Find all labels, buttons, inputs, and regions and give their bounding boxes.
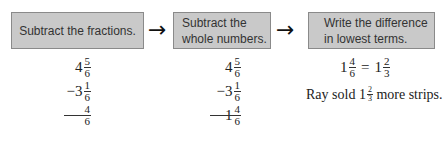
denominator: 6 (235, 68, 241, 79)
step-box-subtract-fractions: Subtract the fractions. (11, 12, 144, 49)
numerator: 1 (234, 80, 242, 92)
equals-sign: = (361, 59, 369, 76)
whole-part: 3 (75, 83, 83, 100)
fraction: 16 (84, 80, 92, 103)
numerator: 4 (84, 104, 92, 116)
whole-part: 1 (374, 59, 382, 76)
numerator: 5 (234, 56, 242, 68)
denominator: 6 (85, 116, 91, 127)
denominator: 6 (350, 68, 356, 79)
denominator: 3 (384, 68, 390, 79)
equation-lowest-terms: 1 46 = 1 23 (340, 55, 390, 79)
subtraction-rule (210, 115, 241, 116)
step-label-line1: Subtract the (182, 15, 270, 31)
denominator: 6 (85, 68, 91, 79)
fraction: 46 (349, 56, 357, 79)
step-label-line1: Write the difference (324, 15, 434, 31)
denominator: 3 (368, 95, 372, 103)
step-label-line2: whole numbers. (182, 31, 270, 47)
fraction: 23 (383, 56, 391, 79)
numerator: 2 (383, 56, 391, 68)
minus-sign: − (67, 83, 75, 100)
fraction: 56 (234, 56, 242, 79)
step-label: Subtract the fractions. (19, 23, 136, 39)
whole-part: 4 (75, 59, 83, 76)
step-label-line2: in lowest terms. (324, 31, 434, 47)
whole-part: 3 (225, 83, 233, 100)
whole-part: 4 (225, 59, 233, 76)
whole-part: 1 (359, 87, 366, 103)
denominator: 6 (235, 92, 241, 103)
minus-sign: − (217, 83, 225, 100)
minuend: 4 56 (205, 55, 241, 79)
arrow-icon: → (276, 20, 294, 40)
numerator: 4 (349, 56, 357, 68)
subtrahend: − 3 16 (55, 79, 91, 103)
fraction: 56 (84, 56, 92, 79)
arrow-icon: → (148, 20, 166, 40)
sentence-suffix: more strips. (373, 87, 443, 103)
numerator: 1 (84, 80, 92, 92)
denominator: 6 (85, 92, 91, 103)
column-subtract-fractions: 4 56 − 3 16 46 (55, 55, 91, 127)
numerator: 4 (234, 104, 242, 116)
step-box-lowest-terms: Write the difference in lowest terms. (308, 12, 435, 49)
subtrahend: − 3 16 (205, 79, 241, 103)
whole-part: 1 (340, 59, 348, 76)
step-box-subtract-whole-numbers: Subtract the whole numbers. (173, 12, 271, 49)
column-subtract-whole-numbers: 4 56 − 3 16 1 46 (205, 55, 241, 127)
fraction: 16 (234, 80, 242, 103)
denominator: 6 (235, 116, 241, 127)
minuend: 4 56 (55, 55, 91, 79)
answer-sentence: Ray sold 1 23 more strips. (306, 86, 443, 103)
numerator: 5 (84, 56, 92, 68)
subtraction-rule (64, 115, 91, 116)
sentence-prefix: Ray sold (306, 87, 359, 103)
